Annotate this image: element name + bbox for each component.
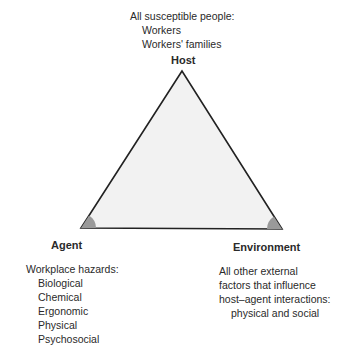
- host-description: All susceptible people:: [130, 9, 234, 23]
- agent-item-physical: Physical: [38, 318, 77, 332]
- agent-label: Agent: [51, 238, 82, 252]
- host-item-workers: Workers: [142, 23, 181, 37]
- agent-item-psychosocial: Psychosocial: [38, 332, 99, 346]
- triangle-shape: [81, 71, 282, 229]
- environment-label: Environment: [233, 240, 300, 254]
- environment-description-line-1: All other external: [219, 264, 298, 278]
- agent-item-ergonomic: Ergonomic: [38, 304, 88, 318]
- environment-description-line-2: factors that influence: [219, 278, 316, 292]
- agent-description: Workplace hazards:: [26, 262, 119, 276]
- environment-description-line-3: host–agent interactions:: [219, 292, 331, 306]
- host-label: Host: [171, 53, 195, 67]
- environment-detail: physical and social: [231, 306, 319, 320]
- host-item-families: Workers' families: [142, 37, 221, 51]
- agent-item-chemical: Chemical: [38, 290, 82, 304]
- agent-item-biological: Biological: [38, 276, 83, 290]
